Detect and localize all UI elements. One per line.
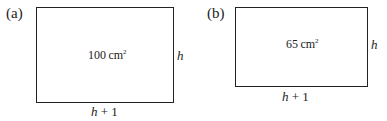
bottom-a-rest: + 1 bbox=[98, 104, 118, 119]
bottom-label-a: h + 1 bbox=[91, 104, 118, 120]
area-b-exp: 2 bbox=[315, 37, 319, 45]
area-b-unit: cm bbox=[300, 37, 315, 51]
area-b-value: 65 bbox=[286, 37, 298, 51]
bottom-label-b: h + 1 bbox=[282, 89, 309, 105]
area-b: 65 cm2 bbox=[286, 37, 319, 52]
area-a: 100 cm2 bbox=[88, 48, 127, 63]
figure-b-label: (b) bbox=[207, 5, 225, 22]
bottom-b-rest: + 1 bbox=[289, 89, 309, 104]
side-label-b: h bbox=[371, 37, 378, 53]
figure-a-label: (a) bbox=[6, 5, 23, 22]
area-a-exp: 2 bbox=[123, 48, 127, 56]
area-a-unit: cm bbox=[108, 48, 123, 62]
area-a-value: 100 bbox=[88, 48, 106, 62]
side-label-a: h bbox=[177, 48, 184, 64]
